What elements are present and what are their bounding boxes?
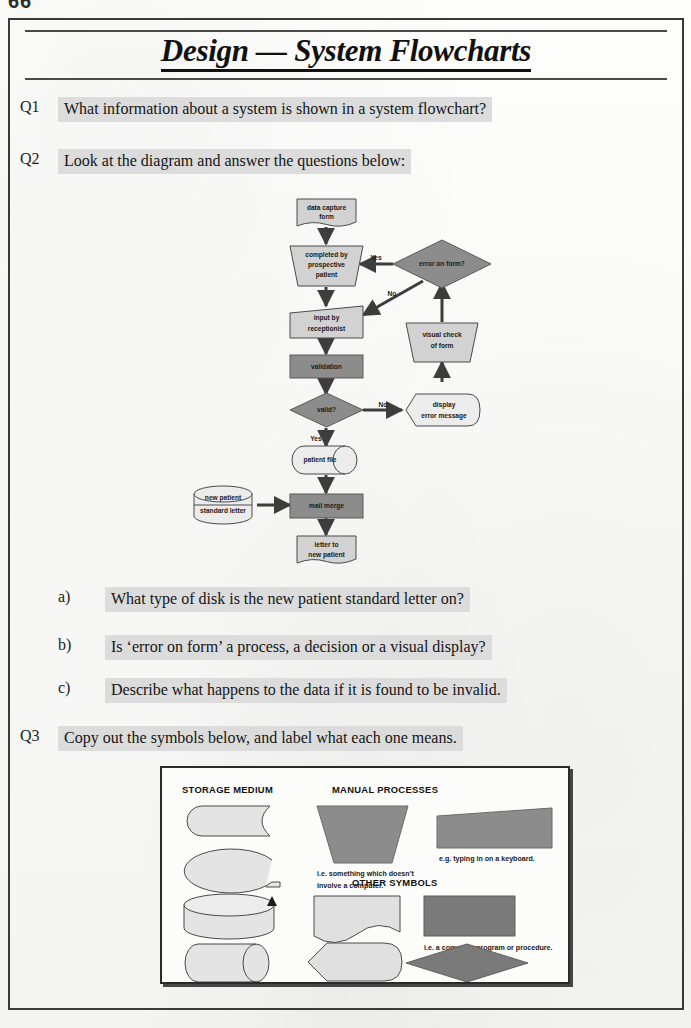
flow-label-completed-3: patient	[316, 271, 338, 279]
symbols-note-manual-2: involve a computer.	[317, 882, 383, 890]
symbol-manual-input-slanted	[437, 808, 552, 848]
question-text-q2a: What type of disk is the new patient sta…	[105, 587, 470, 612]
flow-label-data-capture-form-2: form	[319, 213, 334, 220]
symbol-magnetic-disk	[184, 894, 277, 939]
question-text-q2c: Describe what happens to the data if it …	[105, 678, 507, 703]
question-text-q2: Look at the diagram and answer the quest…	[58, 149, 411, 174]
question-text-q2b: Is ‘error on form’ a process, a decision…	[105, 635, 492, 660]
flow-label-mail-merge: mail merge	[309, 502, 344, 510]
flow-edge-label-no-top: No	[388, 290, 397, 297]
flow-label-visualcheck-2: of form	[431, 342, 454, 349]
question-number-q2c: c)	[58, 679, 70, 697]
question-text-q1: What information about a system is shown…	[58, 97, 492, 122]
flow-node-letter-to-new-patient: letter to new patient	[297, 536, 356, 563]
flow-label-input-1: input by	[314, 314, 340, 322]
flow-arrow-error-no	[363, 281, 423, 315]
flow-label-visualcheck-1: visual check	[422, 331, 462, 338]
flow-label-data-capture-form-1: data capture	[307, 204, 347, 212]
flow-edge-label-yes-valid: Yes	[310, 435, 322, 442]
symbol-magnetic-tape-reel	[184, 849, 280, 893]
system-flowchart-diagram: data capture form completed by prospecti…	[180, 182, 520, 572]
symbols-heading-storage: STORAGE MEDIUM	[182, 784, 273, 795]
flow-node-data-capture-form: data capture form	[297, 199, 356, 226]
flow-edge-label-no-valid: No	[379, 401, 388, 408]
flow-node-display-error-message: display error message	[406, 394, 480, 426]
flow-node-valid: valid?	[290, 393, 363, 427]
page-title-text: Design — System Flowcharts	[161, 33, 531, 72]
flow-label-error-on-form: error on form?	[419, 260, 465, 267]
title-rule-bottom	[25, 78, 667, 80]
symbols-note-keyboard: e.g. typing in on a keyboard.	[439, 855, 535, 863]
flow-label-completed-1: completed by	[305, 251, 348, 259]
flow-node-new-patient-standard-letter: new patient standard letter	[194, 486, 252, 524]
flow-label-completed-2: prospective	[308, 261, 345, 269]
flow-label-display-1: display	[433, 401, 456, 409]
flow-label-stdletter-1: new patient	[205, 494, 242, 502]
flow-label-stdletter-2: standard letter	[200, 507, 246, 514]
symbols-heading-manual: MANUAL PROCESSES	[332, 784, 438, 795]
question-number-q2b: b)	[58, 636, 71, 654]
symbols-reference-panel: STORAGE MEDIUM MANUAL PROCESSES OTHER SY…	[160, 766, 570, 984]
flow-edge-label-yes: Yes	[370, 254, 382, 261]
question-number-q2a: a)	[58, 588, 70, 606]
flow-label-display-2: error message	[421, 412, 467, 420]
flow-node-error-on-form: error on form?	[393, 240, 491, 288]
question-number-q3: Q3	[20, 727, 40, 745]
symbol-display-hexagon	[308, 943, 402, 981]
symbol-manual-operation-trapezoid	[317, 806, 408, 863]
symbol-document-wavy	[314, 896, 400, 943]
symbols-note-manual-1: i.e. something which doesn’t	[317, 870, 415, 878]
flow-label-valid: valid?	[317, 406, 336, 413]
question-number-q2: Q2	[20, 150, 40, 168]
question-number-q1: Q1	[20, 98, 40, 116]
worksheet-page: 66 Design — System Flowcharts Q1 What in…	[0, 0, 691, 1028]
page-number: 66	[8, 0, 32, 13]
flow-label-validation: validation	[311, 363, 342, 370]
symbol-process-rectangle	[424, 896, 515, 936]
question-text-q3: Copy out the symbols below, and label wh…	[58, 726, 463, 751]
page-title: Design — System Flowcharts	[25, 33, 667, 69]
flow-label-patient-file: patient file	[304, 456, 337, 464]
flow-label-input-2: receptionist	[308, 325, 346, 333]
flow-label-letter-1: letter to	[314, 541, 338, 548]
symbol-magnetic-tape	[187, 806, 270, 836]
flow-node-completed-by-prospective-patient: completed by prospective patient	[290, 246, 363, 286]
symbol-magnetic-drum	[185, 944, 269, 982]
flow-node-visual-check-of-form: visual check of form	[406, 323, 478, 362]
flow-node-input-by-receptionist: input by receptionist	[290, 306, 363, 338]
flow-node-validation: validation	[290, 355, 363, 378]
flow-node-patient-file: patient file	[292, 446, 357, 474]
title-rule-top	[25, 30, 667, 32]
flow-label-letter-2: new patient	[308, 551, 345, 559]
flow-node-mail-merge: mail merge	[290, 494, 363, 518]
